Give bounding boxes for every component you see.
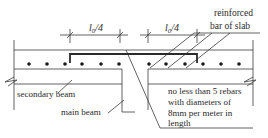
label-reinforced-line1: reinforced	[214, 8, 253, 18]
label-secondary-beam: secondary beam	[17, 89, 75, 99]
slab-reinforcement-diagram: l0/4 l0/4 reinforced bar of slab seconda…	[0, 0, 268, 138]
label-note-line1: no less than 5 rebars	[168, 86, 242, 96]
main-beam-outline	[122, 69, 148, 112]
secondary-beam-outline	[5, 77, 256, 86]
label-note-line4: length	[168, 118, 191, 128]
leader-reinforced-2	[168, 33, 212, 68]
dimension-label-right: l0/4	[165, 22, 179, 35]
label-note-line2: with diameters of	[168, 97, 231, 107]
rebar-dots	[27, 62, 241, 66]
leader-reinforced-3	[186, 33, 230, 68]
label-note-line3: 8mm per meter in	[168, 108, 233, 118]
dimension-label-left: l0/4	[89, 22, 103, 35]
top-rebar	[70, 54, 197, 63]
section-break-line	[126, 50, 160, 128]
label-main-beam: main beam	[61, 107, 101, 117]
leader-reinforced-1	[150, 33, 194, 68]
label-reinforced-line2: bar of slab	[210, 21, 250, 31]
